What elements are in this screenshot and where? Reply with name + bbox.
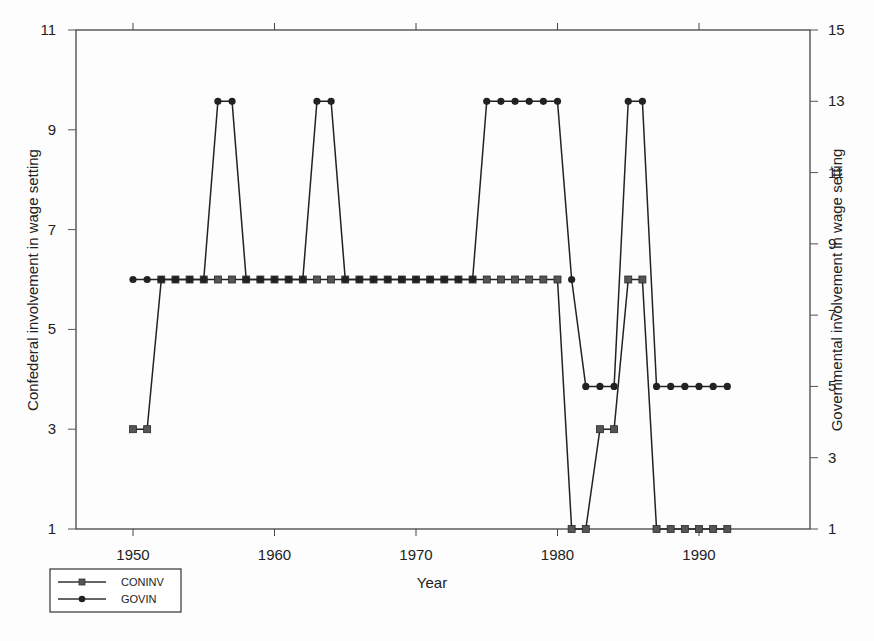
circle-marker-icon: [398, 276, 405, 283]
x-tick-label: 1950: [116, 546, 149, 563]
y-right-tick-label: 3: [828, 449, 836, 466]
square-marker-icon: [313, 276, 320, 283]
x-axis-title: Year: [417, 574, 447, 591]
y-axis-left: 1357911: [40, 21, 76, 537]
y-left-tick-label: 3: [48, 420, 56, 437]
circle-marker-icon: [611, 383, 618, 390]
circle-marker-icon: [228, 98, 235, 105]
circle-marker-icon: [497, 98, 504, 105]
circle-marker-icon: [568, 276, 575, 283]
circle-marker-icon: [299, 276, 306, 283]
series-coninv: [130, 276, 731, 533]
square-marker-icon: [596, 426, 603, 433]
x-tick-label: 1980: [541, 546, 574, 563]
circle-marker-icon: [271, 276, 278, 283]
square-marker-icon: [328, 276, 335, 283]
square-marker-icon: [229, 276, 236, 283]
square-marker-icon: [710, 526, 717, 533]
y-axis-right-title: Governmental involvement in wage setting: [828, 149, 845, 432]
circle-marker-icon: [695, 383, 702, 390]
circle-marker-icon: [285, 276, 292, 283]
square-marker-icon: [526, 276, 533, 283]
circle-marker-icon: [186, 276, 193, 283]
legend-label-coninv: CONINV: [121, 576, 164, 588]
square-marker-icon: [568, 526, 575, 533]
circle-marker-icon: [554, 98, 561, 105]
x-tick-label: 1990: [682, 546, 715, 563]
circle-marker-icon: [483, 98, 490, 105]
series-govin: [129, 98, 731, 390]
circle-marker-icon: [540, 98, 547, 105]
y-right-tick-label: 1: [828, 520, 836, 537]
circle-marker-icon: [313, 98, 320, 105]
circle-marker-icon: [328, 98, 335, 105]
circle-marker-icon: [214, 98, 221, 105]
square-marker-icon: [653, 526, 660, 533]
y-left-tick-label: 5: [48, 320, 56, 337]
circle-marker-icon: [129, 276, 136, 283]
y-left-tick-label: 1: [48, 520, 56, 537]
square-marker-icon: [130, 426, 137, 433]
circle-marker-icon: [243, 276, 250, 283]
square-marker-icon: [611, 426, 618, 433]
dual-axis-line-chart: 19501960197019801990 1357911 13579111315…: [0, 0, 874, 641]
square-marker-icon: [497, 276, 504, 283]
circle-marker-icon: [582, 383, 589, 390]
circle-marker-icon: [441, 276, 448, 283]
y-left-tick-label: 11: [40, 21, 56, 38]
circle-marker-icon: [625, 98, 632, 105]
circle-marker-icon: [526, 98, 533, 105]
circle-marker-icon: [667, 383, 674, 390]
circle-marker-icon: [257, 276, 264, 283]
square-marker-icon: [681, 526, 688, 533]
square-marker-icon: [639, 276, 646, 283]
square-marker-icon: [540, 276, 547, 283]
circle-marker-icon: [710, 383, 717, 390]
circle-marker-icon: [639, 98, 646, 105]
series-line: [133, 280, 727, 530]
square-marker-icon: [582, 526, 589, 533]
circle-marker-icon: [653, 383, 660, 390]
series-layer: [129, 98, 731, 533]
y-left-tick-label: 9: [48, 121, 56, 138]
y-right-tick-label: 13: [828, 92, 845, 109]
circle-marker-icon: [144, 276, 151, 283]
y-right-tick-label: 15: [828, 21, 845, 38]
circle-marker-icon: [200, 276, 207, 283]
circle-marker-icon: [158, 276, 165, 283]
circle-marker-icon: [356, 276, 363, 283]
square-marker-icon: [667, 526, 674, 533]
legend-label-govin: GOVIN: [121, 593, 157, 605]
circle-marker-icon: [681, 383, 688, 390]
circle-marker-icon: [342, 276, 349, 283]
circle-marker-icon: [724, 383, 731, 390]
circle-marker-icon: [469, 276, 476, 283]
square-marker-icon: [144, 426, 151, 433]
x-tick-label: 1960: [258, 546, 291, 563]
x-axis: 19501960197019801990: [116, 23, 715, 563]
circle-marker-icon: [172, 276, 179, 283]
circle-marker-icon: [370, 276, 377, 283]
square-marker-icon: [483, 276, 490, 283]
circle-marker-icon: [384, 276, 391, 283]
square-marker-icon: [79, 579, 85, 585]
legend: CONINV GOVIN: [50, 569, 181, 612]
y-left-tick-label: 7: [48, 221, 56, 238]
square-marker-icon: [696, 526, 703, 533]
circle-marker-icon: [427, 276, 434, 283]
circle-marker-icon: [455, 276, 462, 283]
circle-marker-icon: [596, 383, 603, 390]
circle-marker-icon: [511, 98, 518, 105]
x-tick-label: 1970: [399, 546, 432, 563]
square-marker-icon: [512, 276, 519, 283]
square-marker-icon: [554, 276, 561, 283]
series-line: [133, 101, 727, 386]
square-marker-icon: [625, 276, 632, 283]
circle-marker-icon: [412, 276, 419, 283]
square-marker-icon: [214, 276, 221, 283]
y-axis-left-title: Confederal involvement in wage setting: [24, 149, 41, 411]
circle-marker-icon: [79, 596, 86, 603]
square-marker-icon: [724, 526, 731, 533]
